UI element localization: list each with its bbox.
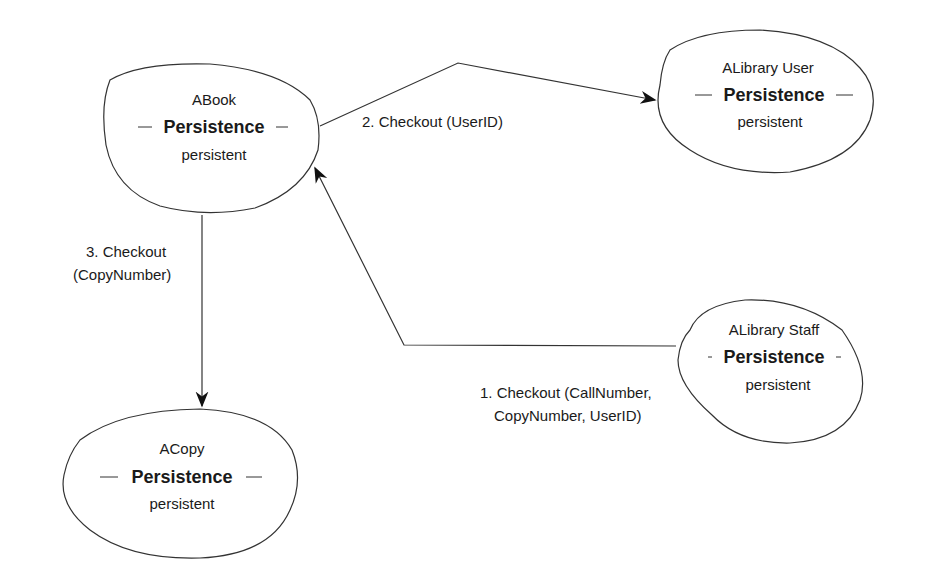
- object-value: persistent: [149, 495, 215, 512]
- object-name: ALibrary Staff: [729, 321, 820, 338]
- message-label-1-line1: 1. Checkout (CallNumber,: [480, 384, 652, 401]
- object-alibrary-user[interactable]: ALibrary User Persistence persistent: [658, 30, 873, 173]
- object-stereotype: Persistence: [723, 347, 824, 367]
- object-alibrary-staff[interactable]: ALibrary Staff Persistence persistent: [678, 300, 863, 443]
- object-value: persistent: [181, 146, 247, 163]
- object-name: ABook: [192, 91, 237, 108]
- object-stereotype: Persistence: [163, 117, 264, 137]
- object-stereotype: Persistence: [131, 467, 232, 487]
- message-link-1[interactable]: [315, 168, 676, 346]
- object-name: ACopy: [159, 440, 205, 457]
- object-value: persistent: [737, 113, 803, 130]
- message-label-1-line2: CopyNumber, UserID): [494, 407, 642, 424]
- object-stereotype: Persistence: [723, 85, 824, 105]
- object-name: ALibrary User: [722, 59, 814, 76]
- object-abook[interactable]: ABook Persistence persistent: [104, 64, 319, 213]
- message-label-2: 2. Checkout (UserID): [362, 113, 503, 130]
- message-label-3-line2: (CopyNumber): [73, 266, 171, 283]
- message-label-3-line1: 3. Checkout: [86, 243, 167, 260]
- object-value: persistent: [745, 376, 811, 393]
- object-acopy[interactable]: ACopy Persistence persistent: [63, 409, 297, 558]
- collaboration-diagram: ABook Persistence persistent ALibrary Us…: [0, 0, 926, 585]
